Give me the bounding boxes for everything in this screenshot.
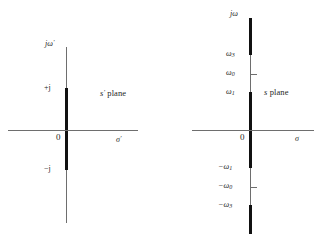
omega-1-label: ω1	[226, 87, 235, 96]
s-prime-plane-diagram: jω′ σ′ 0 +j −j s′ plane	[0, 0, 160, 247]
real-axis-line	[192, 130, 314, 131]
real-axis-label: σ	[295, 134, 299, 143]
minus-j-label: −j	[44, 164, 51, 173]
imaginary-axis-label: jω′	[45, 38, 55, 48]
two-plane-figure: jω′ σ′ 0 +j −j s′ plane jω σ 0	[0, 0, 320, 247]
imaginary-axis-label-prime: ′	[53, 38, 55, 46]
plane-name-label: s′ plane	[100, 88, 126, 98]
real-axis-label-prime: ′	[120, 134, 122, 142]
real-axis-label: σ′	[116, 134, 122, 144]
omega-0-sub: 0	[232, 71, 235, 77]
bold-band-segment	[65, 88, 68, 170]
omega-3-sub: 3	[232, 52, 235, 58]
omega-0-label: ω0	[226, 68, 235, 77]
plus-j-label: +j	[44, 83, 51, 92]
plane-name-label: s plane	[264, 88, 289, 97]
minus-omega-0-sub: 0	[229, 184, 232, 190]
minus-omega-3-label: −ω3	[218, 200, 232, 209]
origin-label: 0	[240, 133, 245, 142]
plane-name-suffix: plane	[267, 87, 288, 97]
minus-omega-0-label: −ω0	[218, 181, 232, 190]
bold-segment-below-minus-omega3	[249, 205, 252, 234]
omega-1-sub: 1	[232, 90, 235, 96]
real-axis-line	[8, 130, 138, 131]
omega-3-label: ω3	[226, 49, 235, 58]
tick-minus-omega-0	[251, 187, 257, 188]
minus-omega-1-label: −ω1	[218, 162, 232, 171]
imaginary-axis-label: jω	[230, 9, 238, 18]
s-plane-diagram: jω σ 0 ω3 ω0 ω1 −ω1 −ω0 −ω3 s plane	[160, 0, 320, 247]
origin-label: 0	[56, 133, 61, 142]
minus-omega-3-sub: 3	[229, 203, 232, 209]
bold-segment-above-omega3	[249, 18, 252, 55]
tick-omega-0	[251, 74, 257, 75]
minus-omega-1-sub: 1	[229, 165, 232, 171]
imaginary-axis-label-text: jω	[45, 39, 53, 48]
plane-name-suffix: plane	[105, 88, 126, 98]
